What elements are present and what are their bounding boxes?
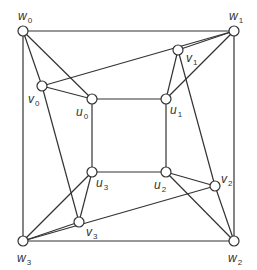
label-w2: w2 bbox=[228, 251, 243, 267]
node-u2 bbox=[161, 167, 171, 177]
graph-diagram: w0w1w2w3v0v1v2v3u0u1u2u3 bbox=[0, 0, 257, 270]
edges-layer bbox=[23, 31, 234, 241]
label-w1: w1 bbox=[229, 9, 244, 25]
edge-v0-v3 bbox=[42, 86, 79, 222]
labels-layer: w0w1w2w3v0v1v2v3u0u1u2u3 bbox=[17, 9, 244, 267]
label-v3: v3 bbox=[86, 225, 98, 241]
label-v1: v1 bbox=[186, 51, 198, 67]
node-v2 bbox=[210, 181, 220, 191]
edge-w2-v2 bbox=[215, 186, 234, 241]
node-v3 bbox=[74, 217, 84, 227]
node-v1 bbox=[173, 45, 183, 55]
edge-v1-v2 bbox=[178, 50, 215, 186]
label-w3: w3 bbox=[17, 251, 32, 267]
label-v2: v2 bbox=[221, 172, 233, 188]
edge-u3-v3 bbox=[79, 172, 92, 222]
label-u3: u3 bbox=[96, 176, 109, 192]
node-u0 bbox=[87, 94, 97, 104]
edge-v2-w3 bbox=[23, 186, 215, 241]
node-v0 bbox=[37, 81, 47, 91]
edge-w0-u0 bbox=[23, 31, 92, 99]
label-v0: v0 bbox=[28, 92, 40, 108]
node-w0 bbox=[18, 26, 28, 36]
node-w2 bbox=[229, 236, 239, 246]
label-u0: u0 bbox=[76, 105, 89, 121]
edge-w0-v0 bbox=[23, 31, 42, 86]
label-w0: w0 bbox=[18, 9, 33, 25]
edge-v0-w1 bbox=[42, 31, 234, 86]
edge-w3-v3 bbox=[23, 222, 79, 241]
edge-v0-u0 bbox=[42, 86, 92, 99]
node-w3 bbox=[18, 236, 28, 246]
node-w1 bbox=[229, 26, 239, 36]
label-u2: u2 bbox=[154, 178, 167, 194]
edge-v1-u1 bbox=[166, 50, 178, 99]
edge-w1-v1 bbox=[178, 31, 234, 50]
label-u1: u1 bbox=[170, 103, 183, 119]
